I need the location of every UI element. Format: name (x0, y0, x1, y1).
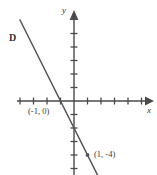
coordinate-plane-svg (0, 0, 157, 175)
graph-figure: y x D (-1, 0) (1, -4) (0, 0, 157, 175)
point-marker (86, 153, 90, 157)
x-axis-label: x (147, 106, 151, 115)
y-axis-arrowhead (70, 10, 79, 20)
point-label-1-neg4: (1, -4) (94, 150, 115, 159)
point-label-x-intercept: (-1, 0) (28, 107, 49, 116)
y-axis-label: y (62, 6, 66, 15)
line-label-d: D (9, 33, 16, 43)
